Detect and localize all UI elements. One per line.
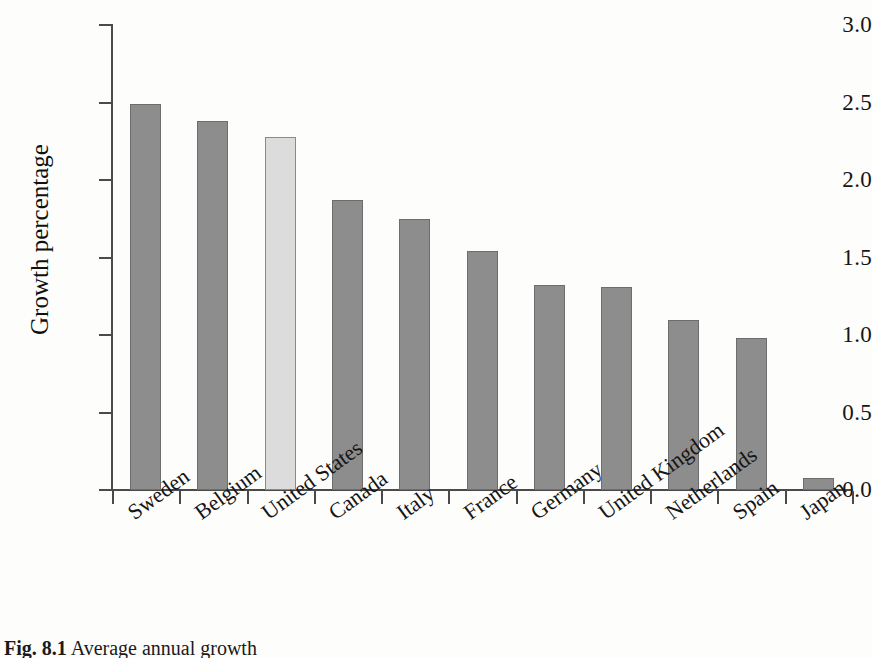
bar: [197, 121, 228, 490]
y-axis-tick: [99, 334, 111, 336]
bar: [601, 287, 632, 490]
bar: [534, 285, 565, 490]
figure-caption-label: Fig. 8.1: [4, 637, 67, 658]
y-axis-line: [111, 24, 113, 491]
y-axis-tick-label: 0.5: [788, 401, 872, 424]
bar-chart-plot-area: Growth percentage 0.00.51.01.52.02.53.0 …: [0, 0, 872, 500]
y-axis-tick: [99, 489, 111, 491]
bar: [467, 251, 498, 490]
x-axis-tick: [852, 491, 854, 504]
y-axis-tick-label: 2.5: [788, 91, 872, 114]
y-axis-tick-label: 2.0: [788, 168, 872, 191]
y-axis-tick: [99, 24, 111, 26]
y-axis-tick-label: 1.0: [788, 323, 872, 346]
x-axis-tick: [785, 491, 787, 504]
bar: [265, 137, 296, 490]
figure-caption: Fig. 8.1 Average annual growth: [4, 636, 864, 658]
x-axis-tick: [112, 491, 114, 504]
bar: [130, 104, 161, 490]
bar: [399, 219, 430, 490]
y-axis-tick: [99, 412, 111, 414]
y-axis-tick: [99, 102, 111, 104]
y-axis-title: Growth percentage: [27, 100, 52, 380]
figure-root: Growth percentage 0.00.51.01.52.02.53.0 …: [0, 0, 872, 658]
y-axis-tick-label: 1.5: [788, 246, 872, 269]
figure-caption-text: Average annual growth: [71, 637, 257, 658]
x-axis-tick: [448, 491, 450, 504]
y-axis-tick: [99, 179, 111, 181]
y-axis-tick: [99, 257, 111, 259]
y-axis-tick-label: 3.0: [788, 13, 872, 36]
